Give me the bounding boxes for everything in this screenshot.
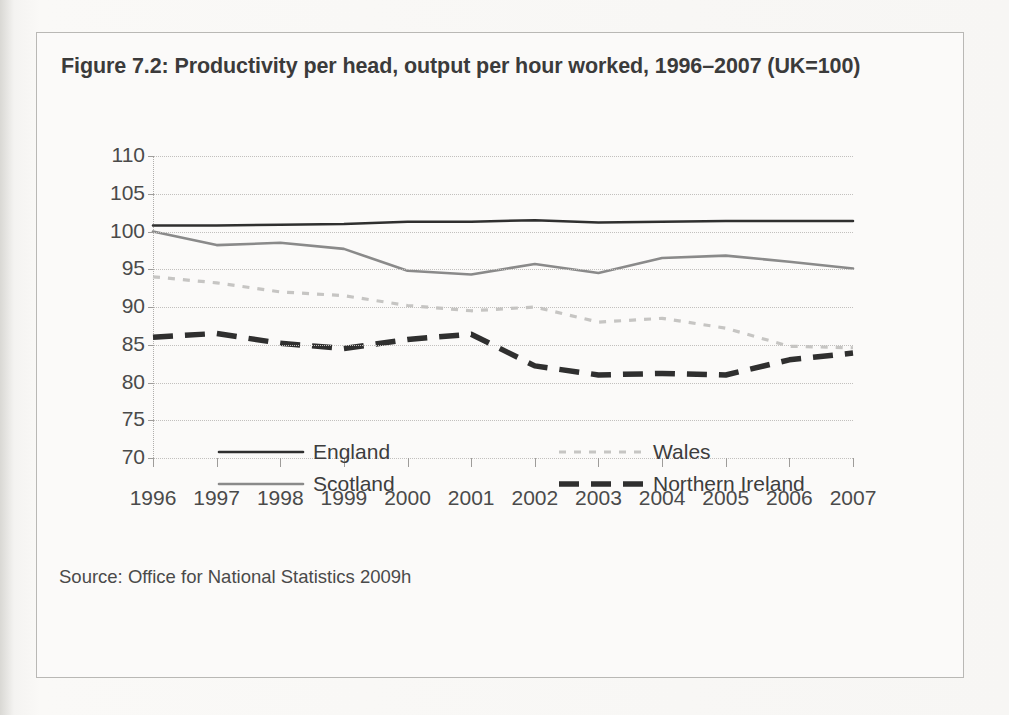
legend-entry-northern-ireland[interactable]: Northern Ireland xyxy=(557,469,805,499)
y-tick-mark-85 xyxy=(148,345,154,346)
y-tick-mark-75 xyxy=(148,420,154,421)
chart-legend: EnglandScotlandWalesNorthern Ireland xyxy=(177,437,877,503)
y-tick-label-75: 75 xyxy=(93,407,145,431)
gridline-y-90 xyxy=(153,307,853,308)
gridline-y-110 xyxy=(153,156,853,157)
legend-entry-england[interactable]: England xyxy=(217,437,390,467)
y-tick-label-90: 90 xyxy=(93,294,145,318)
dashed-line-swatch xyxy=(557,475,645,493)
legend-label: Northern Ireland xyxy=(653,472,805,496)
legend-label: Scotland xyxy=(313,472,395,496)
series-line-northern-ireland xyxy=(153,333,853,375)
gridline-y-80 xyxy=(153,383,853,384)
y-tick-label-85: 85 xyxy=(93,332,145,356)
legend-entry-scotland[interactable]: Scotland xyxy=(217,469,395,499)
y-tick-label-70: 70 xyxy=(93,445,145,469)
dotted-line-swatch xyxy=(557,443,645,461)
y-tick-mark-90 xyxy=(148,307,154,308)
legend-entry-wales[interactable]: Wales xyxy=(557,437,711,467)
gridline-y-105 xyxy=(153,194,853,195)
y-tick-mark-105 xyxy=(148,194,154,195)
source-note: Source: Office for National Statistics 2… xyxy=(59,566,411,588)
y-tick-label-80: 80 xyxy=(93,370,145,394)
y-tick-label-100: 100 xyxy=(93,219,145,243)
plot-area: 1996199719981999200020012002200320042005… xyxy=(153,156,853,458)
series-line-scotland xyxy=(153,232,853,275)
y-axis-tick-labels: 110105100959085807570 xyxy=(89,156,145,458)
y-tick-mark-80 xyxy=(148,383,154,384)
figure-title: Figure 7.2: Productivity per head, outpu… xyxy=(61,51,881,82)
y-tick-mark-100 xyxy=(148,232,154,233)
y-tick-mark-110 xyxy=(148,156,154,157)
gridline-y-100 xyxy=(153,232,853,233)
y-tick-label-95: 95 xyxy=(93,256,145,280)
legend-label: Wales xyxy=(653,440,711,464)
legend-label: England xyxy=(313,440,390,464)
solid-line-swatch xyxy=(217,475,305,493)
solid-line-swatch xyxy=(217,443,305,461)
y-tick-label-110: 110 xyxy=(93,143,145,167)
y-tick-label-105: 105 xyxy=(93,181,145,205)
figure-container: Figure 7.2: Productivity per head, outpu… xyxy=(36,32,964,678)
series-line-england xyxy=(153,220,853,225)
x-tick-mark-1996 xyxy=(153,458,154,467)
gridline-y-85 xyxy=(153,345,853,346)
y-tick-mark-95 xyxy=(148,269,154,270)
page-root: Figure 7.2: Productivity per head, outpu… xyxy=(0,0,1009,715)
gridline-y-95 xyxy=(153,269,853,270)
gridline-y-75 xyxy=(153,420,853,421)
